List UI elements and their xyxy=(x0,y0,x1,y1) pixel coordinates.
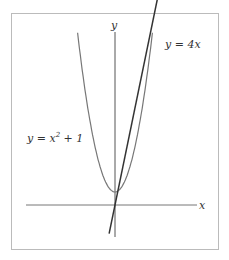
line-label: y = 4x xyxy=(164,38,201,51)
parabola-label: y = x2 + 1 xyxy=(26,131,83,145)
y-axis-label: y xyxy=(110,19,118,32)
figure: x y y = 4x y = x2 + 1 xyxy=(0,0,229,260)
tangent-line xyxy=(109,0,161,234)
x-axis-label: x xyxy=(199,199,206,212)
